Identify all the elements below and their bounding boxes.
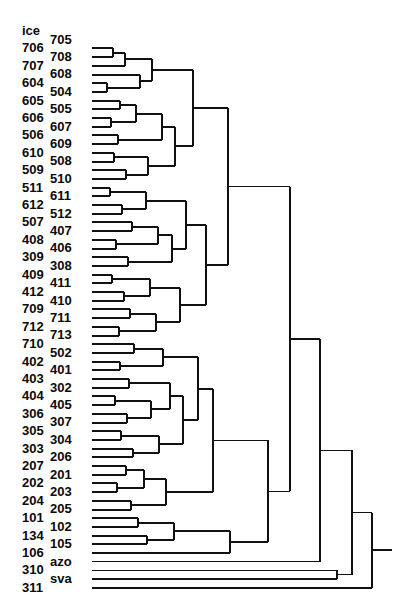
- leaf-label: 608: [50, 66, 72, 81]
- leaf-label: 411: [50, 275, 71, 290]
- leaf-label: 508: [50, 153, 72, 168]
- leaf-label: 512: [50, 206, 72, 221]
- leaf-label: 304: [50, 432, 72, 447]
- leaf-label: 706: [22, 40, 44, 55]
- leaf-label: 705: [50, 32, 72, 47]
- leaf-label: 405: [50, 397, 72, 412]
- leaf-label: 406: [50, 240, 72, 255]
- leaf-label: 410: [50, 293, 72, 308]
- leaf-label: 311: [22, 580, 43, 595]
- leaf-label: 202: [22, 475, 44, 490]
- leaf-label: 407: [50, 223, 72, 238]
- leaf-label: 605: [22, 93, 44, 108]
- leaf-label: 506: [22, 127, 44, 142]
- leaf-label: 105: [50, 536, 72, 551]
- leaf-label: 204: [22, 493, 44, 508]
- leaf-label: 409: [22, 267, 44, 282]
- leaf-label: 134: [22, 528, 44, 543]
- dendrogram-figure: ice7057067087076086045046055056066075066…: [0, 0, 413, 616]
- leaf-label: 507: [22, 214, 44, 229]
- leaf-label: 509: [22, 162, 44, 177]
- leaf-label: 402: [22, 354, 44, 369]
- leaf-label: 510: [50, 171, 72, 186]
- leaf-label: 504: [50, 84, 72, 99]
- leaf-label: 712: [22, 319, 44, 334]
- leaf-label: 606: [22, 110, 44, 125]
- leaf-label: 201: [50, 467, 72, 482]
- leaf-label: 511: [22, 180, 43, 195]
- leaf-label: 309: [22, 249, 44, 264]
- leaf-label: 401: [50, 362, 72, 377]
- leaf-label: 505: [50, 101, 72, 116]
- leaf-label: 708: [50, 49, 72, 64]
- leaf-label: 203: [50, 484, 72, 499]
- leaf-label: 612: [22, 197, 44, 212]
- leaf-label: 308: [50, 258, 72, 273]
- leaf-label: 306: [22, 406, 44, 421]
- leaf-label: 611: [50, 188, 71, 203]
- leaf-label: 205: [50, 501, 72, 516]
- leaf-label: sva: [50, 571, 72, 586]
- leaf-label: 408: [22, 232, 44, 247]
- leaf-label: 707: [22, 58, 44, 73]
- leaf-label: 206: [50, 449, 72, 464]
- leaf-label: 307: [50, 414, 72, 429]
- leaf-label: 403: [22, 371, 44, 386]
- leaf-label: 713: [50, 327, 72, 342]
- leaf-label: ice: [22, 23, 40, 38]
- leaf-label: 709: [22, 301, 44, 316]
- dendrogram-canvas: ice7057067087076086045046055056066075066…: [0, 0, 413, 616]
- leaf-label: 302: [50, 380, 72, 395]
- leaf-label: 610: [22, 145, 44, 160]
- leaf-label: 502: [50, 345, 72, 360]
- leaf-label: 305: [22, 423, 44, 438]
- leaf-label: 207: [22, 458, 44, 473]
- leaf-label: 310: [22, 562, 44, 577]
- figure-caption: [8, 604, 404, 614]
- leaf-label: 711: [50, 310, 71, 325]
- leaf-label: 303: [22, 441, 44, 456]
- leaf-label: 607: [50, 119, 72, 134]
- leaf-label: 106: [22, 545, 44, 560]
- leaf-label: 412: [22, 284, 44, 299]
- leaf-label: 609: [50, 136, 72, 151]
- leaf-label: 604: [22, 75, 44, 90]
- leaf-label: 404: [22, 388, 44, 403]
- leaf-label: 101: [22, 510, 44, 525]
- leaf-label: azo: [50, 554, 72, 569]
- leaf-label: 710: [22, 336, 44, 351]
- leaf-label: 102: [50, 519, 72, 534]
